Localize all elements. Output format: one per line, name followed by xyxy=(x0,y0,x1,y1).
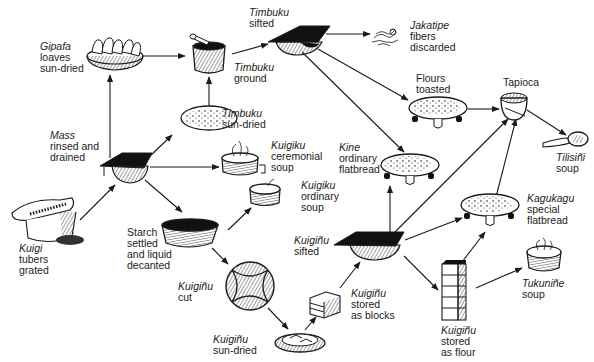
ceremonial-soup-pot-icon xyxy=(222,141,265,175)
flour-stack-icon xyxy=(442,260,466,320)
label-timbuku-ground: Timbuku ground xyxy=(234,62,274,84)
edge-cut-sundried xyxy=(268,308,288,329)
edge-sundried-blocks xyxy=(305,317,316,330)
edge-blocks-sifted xyxy=(340,262,360,288)
label-mass: Mass rinsed and drained xyxy=(50,130,99,163)
label-flours-toasted: Flours toasted xyxy=(416,73,450,95)
label-kuigiku-ceremonial: Kuigiku ceremonial soup xyxy=(271,140,322,173)
edge-flour-tapioca xyxy=(496,119,516,197)
label-timbuku-sundried: Timbuku sun-dried xyxy=(222,108,266,130)
kagukagu-griddle-icon xyxy=(461,194,519,226)
kine-griddle-icon xyxy=(381,154,439,185)
label-jakatipe: Jakatipe fibers discarded xyxy=(410,20,456,53)
label-tilisini: Tilisiñi soup xyxy=(556,152,585,174)
gipafa-loaves-icon xyxy=(87,38,143,70)
sundried-plate-icon xyxy=(275,334,325,352)
mortar-pestle-icon xyxy=(190,34,225,73)
edge-sifted-flours xyxy=(318,49,408,100)
edge-flour-kagukagu xyxy=(462,232,485,262)
label-kuiginu-cut: Kuigiñu cut xyxy=(178,281,213,303)
grater-icon xyxy=(12,198,84,245)
label-gipafa: Gipafa loaves sun-dried xyxy=(40,41,84,74)
edge-sifted-kagukagu xyxy=(405,218,462,240)
fibers-icon xyxy=(372,29,398,46)
edge-sifted-flour xyxy=(404,256,438,290)
label-tapioca: Tapioca xyxy=(503,77,539,88)
edge-sifted-kine xyxy=(302,52,404,152)
edge-mass-starch xyxy=(145,180,182,212)
cut-starch-ball-icon xyxy=(226,262,274,310)
edge-timbuku-ground-sifted xyxy=(232,44,268,54)
label-starch: Starch settled and liquid decanted xyxy=(127,227,172,271)
tukunine-soup-pot-icon xyxy=(527,238,561,271)
label-timbuku-sifted: Timbuku sifted xyxy=(249,7,289,29)
label-kuiginu-sundried: Kuigiñu sun-dried xyxy=(213,334,257,356)
edge-tapioca-tilisini xyxy=(527,110,566,135)
label-kuiginu-blocks: Kuigiñu stored as blocks xyxy=(351,288,395,321)
mass-sieve-icon xyxy=(100,153,152,183)
label-tukunine: Tukuniñe soup xyxy=(522,278,564,300)
edge-flour-tukunine xyxy=(476,268,522,288)
griddle-icon xyxy=(409,97,467,128)
label-kagukagu: Kagukagu special flatbread xyxy=(527,193,574,226)
label-kine: Kine ordinary flatbread xyxy=(339,142,380,175)
edge-starch-cut xyxy=(212,248,228,264)
label-kuiginu-sifted: Kuigiñu sifted xyxy=(294,235,329,257)
edge-kuigi-mass xyxy=(80,185,115,220)
edge-starch-ordinary xyxy=(228,208,251,230)
kuiginu-sieve-icon xyxy=(334,232,404,260)
label-kuiginu-flour: Kuigiñu stored as flour xyxy=(441,325,476,358)
process-flow-diagram xyxy=(0,0,594,362)
ordinary-soup-pot-icon xyxy=(250,179,280,206)
tapioca-bowl-icon xyxy=(501,93,527,120)
label-kuigi: Kuigi tubers grated xyxy=(19,243,49,276)
starch-blocks-icon xyxy=(310,292,340,318)
label-kuigiku-ordinary: Kuigiku ordinary soup xyxy=(301,180,339,213)
